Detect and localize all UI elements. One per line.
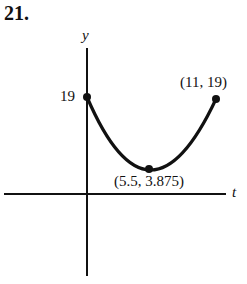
point-endpoint xyxy=(212,95,220,103)
parabola-curve xyxy=(87,97,216,170)
vertex-label: (5.5, 3.875) xyxy=(114,173,184,190)
t-axis-label: t xyxy=(232,184,236,201)
point-vertex xyxy=(145,165,153,173)
y-intercept-label: 19 xyxy=(60,88,75,105)
endpoint-label: (11, 19) xyxy=(180,74,227,91)
point-y-intercept xyxy=(83,93,91,101)
y-axis-label: y xyxy=(82,27,89,44)
graph-canvas xyxy=(0,0,247,284)
